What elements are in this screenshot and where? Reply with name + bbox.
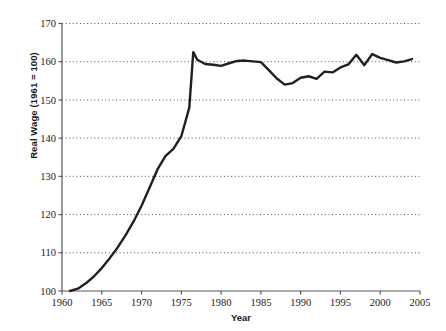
x-tick-label-2000: 2000 [370,297,391,308]
x-tick-label-1970: 1970 [131,297,152,308]
x-tick-label-1990: 1990 [290,297,311,308]
x-axis-title: Year [62,312,420,323]
y-tick-label-130: 130 [40,171,56,182]
x-tick-label-2005: 2005 [410,297,431,308]
x-tick-label-1985: 1985 [250,297,271,308]
x-tick-group: 1960196519701975198019851990199520002005 [52,291,431,308]
x-tick-label-1980: 1980 [211,297,232,308]
line-chart-plot: 100110120130140150160170 196019651970197… [0,0,446,331]
y-tick-label-160: 160 [40,56,56,67]
x-tick-label-1960: 1960 [52,297,73,308]
y-tick-label-120: 120 [40,209,56,220]
x-tick-label-1965: 1965 [91,297,112,308]
y-axis-title: Real Wage (1961 = 100) [28,26,39,186]
y-tick-label-140: 140 [40,133,56,144]
chart-figure: 100110120130140150160170 196019651970197… [0,0,446,331]
y-tick-label-150: 150 [40,95,56,106]
y-tick-label-100: 100 [40,286,56,297]
real-wage-line [70,52,412,291]
x-tick-label-1995: 1995 [330,297,351,308]
x-tick-label-1975: 1975 [171,297,192,308]
y-tick-group: 100110120130140150160170 [40,18,62,297]
y-tick-label-110: 110 [41,247,56,258]
y-tick-label-170: 170 [40,18,56,29]
